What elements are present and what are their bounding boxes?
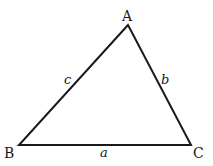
side-label-c: c — [64, 72, 72, 87]
vertex-label-c: C — [193, 145, 204, 161]
triangle-diagram: A B C a b c — [0, 0, 213, 166]
vertex-label-a: A — [121, 8, 133, 24]
side-label-b: b — [161, 72, 169, 87]
vertex-label-b: B — [4, 145, 14, 161]
side-label-a: a — [100, 145, 108, 160]
